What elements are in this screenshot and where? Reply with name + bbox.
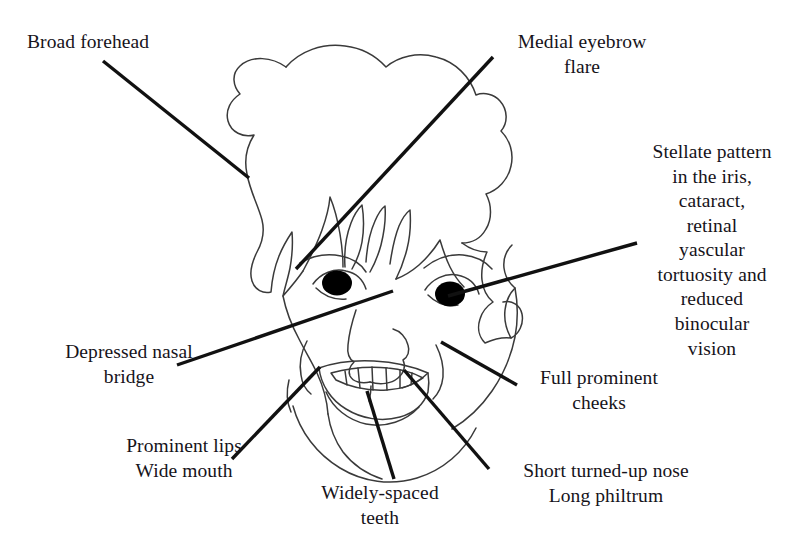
label-stellate-iris: Stellate pattern in the iris, cataract, … [630,140,794,361]
hair-fringe-left [303,197,343,271]
nose-tip-outline [370,329,409,384]
full-prominent-cheeks-leader [441,342,517,385]
label-full-prominent-cheeks: Full prominent cheeks [523,366,675,415]
leader-lines-group [103,57,637,479]
hair-lock-3 [390,210,410,279]
hair-temple-right [462,243,515,343]
label-widely-spaced-teeth: Widely-spaced teeth [305,481,455,530]
teeth-divider-3 [372,367,373,390]
label-depressed-nasal-bridge: Depressed nasal bridge [36,340,222,389]
label-prominent-lips-wide-mouth: Prominent lips Wide mouth [86,434,282,483]
jaw-outline-left [328,414,382,479]
label-broad-forehead: Broad forehead [27,30,149,55]
left-eye [322,271,352,296]
nasolabial-fold-right [433,345,443,399]
short-nose-leader [404,370,489,469]
label-medial-eyebrow-flare: Medial eyebrow flare [498,30,666,79]
hair-outline [227,59,303,296]
teeth-divider-4 [386,368,387,390]
medial-eyebrow-flare-leader [296,57,493,269]
teeth-divider-2 [358,368,360,388]
teeth-divider-1 [345,371,347,385]
widely-spaced-teeth-leader [367,391,394,479]
label-short-turned-up-nose-long-philtrum: Short turned-up nose Long philtrum [495,459,717,508]
hair-lock-2 [366,206,385,272]
figure-container: Broad forehead Medial eyebrow flare Stel… [0,0,800,549]
